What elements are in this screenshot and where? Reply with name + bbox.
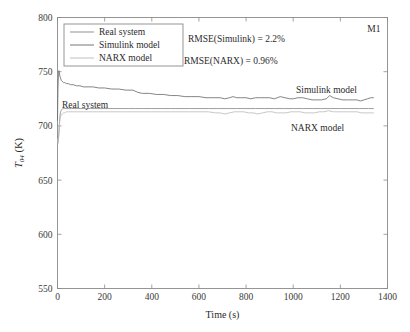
x-tick-label: 1400 bbox=[378, 292, 397, 302]
curve-label-real-system: Real system bbox=[62, 100, 109, 110]
x-tick-label: 400 bbox=[145, 292, 160, 302]
x-tick-label: 800 bbox=[239, 292, 254, 302]
chart-figure: 0200400600800100012001400550600650700750… bbox=[0, 0, 410, 332]
legend-label-0: Real system bbox=[99, 27, 146, 37]
x-tick-label: 0 bbox=[55, 292, 60, 302]
x-axis-label: Time (s) bbox=[206, 309, 240, 321]
y-tick-label: 600 bbox=[38, 230, 53, 240]
curve-label-narx: NARX model bbox=[291, 123, 344, 133]
y-tick-label: 550 bbox=[38, 284, 53, 294]
curve-label-simulink: Simulink model bbox=[296, 85, 357, 95]
svg-text:T04 (K): T04 (K) bbox=[13, 137, 26, 168]
y-tick-label: 750 bbox=[38, 67, 53, 77]
x-tick-label: 200 bbox=[98, 292, 113, 302]
annotation-rmse-simulink: RMSE(Simulink) = 2.2% bbox=[188, 34, 285, 45]
chart-svg: 0200400600800100012001400550600650700750… bbox=[0, 0, 410, 332]
x-tick-label: 1000 bbox=[284, 292, 303, 302]
corner-annotation: M1 bbox=[367, 24, 380, 34]
y-tick-label: 800 bbox=[38, 13, 53, 23]
y-tick-label: 650 bbox=[38, 176, 53, 186]
x-tick-label: 1200 bbox=[331, 292, 350, 302]
x-tick-label: 600 bbox=[192, 292, 207, 302]
y-tick-label: 700 bbox=[38, 121, 53, 131]
annotation-rmse-narx: RMSE(NARX) = 0.96% bbox=[184, 56, 278, 67]
legend-label-1: Simulink model bbox=[99, 40, 160, 50]
legend-label-2: NARX model bbox=[99, 53, 152, 63]
y-axis-label: T04 (K) bbox=[13, 137, 26, 168]
